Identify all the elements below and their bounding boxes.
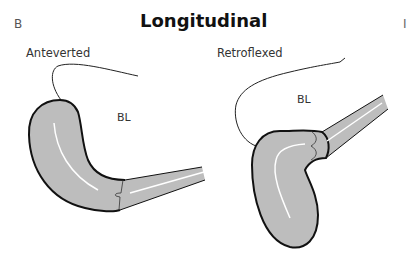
right-uterus-body: [252, 130, 329, 247]
left-bladder-outline: [52, 64, 138, 100]
diagram-canvas: [0, 0, 408, 267]
